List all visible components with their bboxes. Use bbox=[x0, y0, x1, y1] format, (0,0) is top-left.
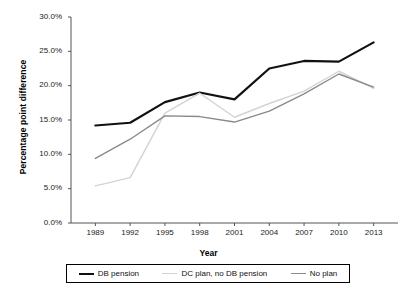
legend-item-db-pension: DB pension bbox=[79, 269, 139, 278]
x-tick-label: 2013 bbox=[352, 228, 396, 237]
series-line-db-pension bbox=[95, 42, 373, 125]
legend-label: DC plan, no DB pension bbox=[181, 269, 267, 278]
line-chart: Percentage point difference 30.0% 25.0% … bbox=[0, 0, 417, 294]
series-line-dc-plan-no-db-pension bbox=[95, 71, 373, 186]
legend-item-no-plan: No plan bbox=[291, 269, 338, 278]
legend-label: No plan bbox=[310, 269, 338, 278]
data-series-group bbox=[95, 42, 373, 186]
x-axis-title: Year bbox=[0, 248, 417, 258]
legend-swatch-line-icon bbox=[79, 273, 94, 275]
legend-swatch-line-icon bbox=[162, 273, 177, 274]
legend-swatch-line-icon bbox=[291, 273, 306, 274]
chart-legend: DB pension DC plan, no DB pension No pla… bbox=[66, 264, 350, 283]
series-line-no-plan bbox=[95, 74, 373, 158]
legend-label: DB pension bbox=[98, 269, 139, 278]
legend-item-dc-plan-no-db-pension: DC plan, no DB pension bbox=[162, 269, 267, 278]
